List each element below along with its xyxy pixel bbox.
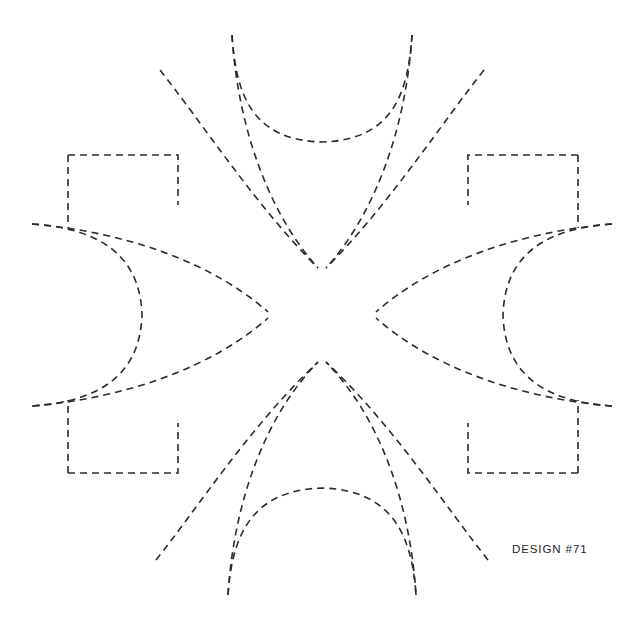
petal-left-upper-edge	[32, 224, 268, 312]
design-page: DESIGN #71	[0, 0, 635, 629]
petal-lower-left-outer-edge	[228, 362, 318, 595]
corner-notch-top-right	[468, 155, 578, 228]
top-axial-arc	[232, 35, 412, 142]
dashed-pattern-artwork	[0, 0, 635, 629]
left-axial-arc	[32, 224, 142, 406]
petal-lower-right-outer-edge	[326, 362, 416, 595]
design-number-label: DESIGN #71	[512, 543, 587, 555]
right-axial-arc	[503, 224, 612, 406]
petal-right-upper-edge	[376, 224, 612, 312]
pattern-group-axial-arcs	[32, 35, 612, 595]
corner-notch-top-left	[68, 155, 178, 228]
petal-upper-left-inner-edge	[160, 70, 318, 268]
petal-upper-right-inner-edge	[326, 70, 484, 268]
corner-notch-bottom-right	[468, 400, 578, 473]
pattern-group-lateral-petals	[32, 224, 612, 406]
pattern-group-corner-notches	[68, 155, 578, 473]
petal-right-lower-edge	[376, 318, 612, 406]
petal-upper-left-outer-edge	[232, 35, 318, 268]
petal-upper-right-outer-edge	[326, 35, 412, 268]
pattern-group-diagonal-petals	[156, 35, 488, 595]
petal-left-lower-edge	[32, 318, 268, 406]
corner-notch-bottom-left	[68, 400, 178, 473]
bottom-axial-arc	[228, 488, 416, 595]
